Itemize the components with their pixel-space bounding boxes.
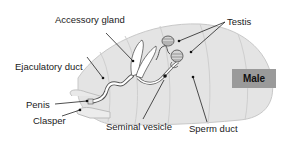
label-clasper: Clasper: [33, 116, 66, 126]
sex-badge: Male: [232, 69, 276, 88]
label-testis: Testis: [227, 17, 251, 27]
label-penis: Penis: [26, 100, 50, 110]
seminal-vesicle-dot: [163, 74, 167, 78]
label-ejaculatory-duct: Ejaculatory duct: [15, 62, 83, 72]
penis-shape: [88, 99, 93, 104]
label-seminal-vesicle: Seminal vesicle: [106, 122, 172, 132]
insect-male-reproductive-diagram: Accessory gland Testis Ejaculatory duct …: [0, 0, 282, 154]
label-accessory-gland: Accessory gland: [55, 15, 125, 25]
label-sperm-duct: Sperm duct: [189, 124, 238, 134]
testis-upper: [162, 36, 174, 46]
badge-label: Male: [243, 73, 265, 84]
